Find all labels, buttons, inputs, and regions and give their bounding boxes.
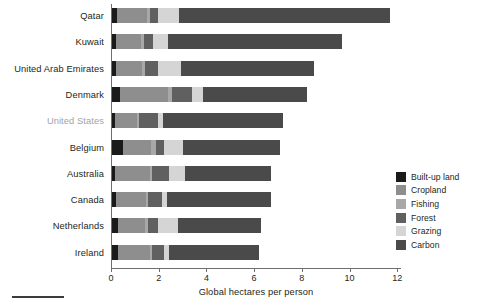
- legend-swatch: [396, 185, 406, 195]
- x-axis-tick: [397, 268, 398, 272]
- bar-segment: [181, 61, 314, 76]
- bar-segment: [144, 34, 153, 49]
- x-axis-tick-label: 2: [156, 273, 161, 283]
- x-axis-line: [111, 268, 401, 269]
- x-axis-tick: [159, 268, 160, 272]
- bar-segment: [139, 113, 158, 128]
- legend-label: Cropland: [411, 185, 446, 195]
- bar-segment: [118, 245, 150, 260]
- legend-item[interactable]: Grazing: [396, 224, 481, 238]
- chart-legend: Built-up landCroplandFishingForestGrazin…: [396, 170, 481, 252]
- bar-segment: [152, 245, 164, 260]
- bar-segment: [203, 87, 307, 102]
- bar-segment: [153, 34, 168, 49]
- x-axis-tick-label: 12: [392, 273, 402, 283]
- legend-label: Forest: [411, 213, 436, 223]
- legend-label: Fishing: [411, 199, 439, 209]
- category-label: United States: [0, 116, 104, 126]
- bar-segment: [178, 218, 261, 233]
- bar-row: [111, 8, 390, 23]
- bar-segment: [158, 8, 179, 23]
- bar-segment: [169, 245, 259, 260]
- x-axis-tick-label: 6: [252, 273, 257, 283]
- bar-segment: [179, 8, 390, 23]
- bar-segment: [145, 61, 158, 76]
- category-label: Ireland: [0, 248, 104, 258]
- legend-item[interactable]: Forest: [396, 211, 481, 225]
- bar-segment: [123, 140, 150, 155]
- bar-segment: [115, 113, 136, 128]
- legend-label: Built-up land: [411, 172, 459, 182]
- y-axis-line: [111, 4, 112, 269]
- bar-segment: [156, 140, 164, 155]
- category-label: Kuwait: [0, 37, 104, 47]
- bar-segment: [152, 166, 169, 181]
- x-axis-tick-label: 8: [299, 273, 304, 283]
- category-label: Denmark: [0, 90, 104, 100]
- bar-segment: [164, 140, 183, 155]
- legend-label: Carbon: [411, 240, 440, 250]
- legend-item[interactable]: Cropland: [396, 184, 481, 198]
- bar-segment: [111, 87, 120, 102]
- legend-swatch: [396, 240, 406, 250]
- bar-segment: [158, 61, 181, 76]
- legend-swatch: [396, 172, 406, 182]
- bar-segment: [167, 192, 271, 207]
- bar-segment: [163, 113, 283, 128]
- bar-row: [111, 192, 271, 207]
- bar-segment: [148, 192, 162, 207]
- bar-segment: [168, 34, 342, 49]
- category-axis-labels: QatarKuwaitUnited Arab EmiratesDenmarkUn…: [0, 0, 104, 268]
- bar-row: [111, 87, 307, 102]
- legend-swatch: [396, 199, 406, 209]
- category-label: Canada: [0, 195, 104, 205]
- x-axis-tick-label: 0: [108, 273, 113, 283]
- legend-swatch: [396, 226, 406, 236]
- bar-row: [111, 166, 271, 181]
- legend-swatch: [396, 213, 406, 223]
- category-label: Netherlands: [0, 221, 104, 231]
- x-axis-title: Global hectares per person: [111, 287, 401, 297]
- corner-rule-artifact: [12, 296, 64, 298]
- x-axis-tick-label: 10: [344, 273, 354, 283]
- x-axis-tick: [302, 268, 303, 272]
- plot-area: [111, 4, 411, 268]
- bar-segment: [172, 87, 192, 102]
- legend-item[interactable]: Carbon: [396, 238, 481, 252]
- bar-segment: [111, 140, 123, 155]
- bar-segment: [116, 34, 141, 49]
- x-axis-tick: [254, 268, 255, 272]
- category-label: Belgium: [0, 143, 104, 153]
- x-axis-tick: [350, 268, 351, 272]
- bar-row: [111, 140, 280, 155]
- bar-segment: [183, 140, 281, 155]
- bar-segment: [111, 218, 118, 233]
- x-axis-tick: [111, 268, 112, 272]
- x-axis-tick-label: 4: [204, 273, 209, 283]
- bar-segment: [116, 192, 146, 207]
- bar-row: [111, 245, 259, 260]
- category-label: Australia: [0, 169, 104, 179]
- legend-label: Grazing: [411, 226, 441, 236]
- bar-segment: [117, 8, 147, 23]
- bar-row: [111, 61, 314, 76]
- category-label: United Arab Emirates: [0, 64, 104, 74]
- bar-segment: [148, 218, 158, 233]
- legend-item[interactable]: Fishing: [396, 197, 481, 211]
- bar-segment: [120, 87, 168, 102]
- bar-segment: [158, 218, 178, 233]
- bar-segment: [115, 166, 150, 181]
- x-axis-tick: [206, 268, 207, 272]
- bar-segment: [118, 218, 145, 233]
- bar-row: [111, 113, 283, 128]
- bar-segment: [116, 61, 142, 76]
- legend-item[interactable]: Built-up land: [396, 170, 481, 184]
- bar-segment: [185, 166, 271, 181]
- bar-row: [111, 218, 261, 233]
- bar-segment: [150, 8, 158, 23]
- bar-segment: [111, 245, 118, 260]
- category-label: Qatar: [0, 11, 104, 21]
- footprint-chart: QatarKuwaitUnited Arab EmiratesDenmarkUn…: [0, 0, 481, 303]
- bar-row: [111, 34, 342, 49]
- bar-segment: [192, 87, 203, 102]
